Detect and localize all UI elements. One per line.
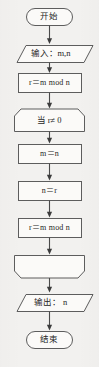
flowchart-canvas	[0, 0, 99, 367]
node-end-shape	[27, 332, 73, 349]
connector-updater-to-loopend	[47, 238, 52, 255]
flowchart-diagram: 开始 输入：m,n r＝m mod n 当 r≠ 0 m＝n n＝r r＝m m…	[0, 0, 99, 367]
connector-loopend-to-output	[47, 278, 52, 293]
node-assign-n-shape	[19, 182, 82, 201]
connector-input-to-initr	[47, 63, 52, 74]
node-init-r-shape	[19, 74, 82, 93]
node-loop-start-shape	[15, 109, 85, 132]
node-update-r-shape	[19, 219, 82, 238]
connector-start-to-input	[47, 26, 52, 45]
connector-loopstart-to-assignm	[47, 132, 52, 144]
node-loop-end-shape	[15, 256, 85, 279]
node-assign-m-shape	[19, 145, 82, 164]
node-output-shape	[17, 295, 93, 312]
connector-assignm-to-assignn	[47, 164, 52, 181]
connector-assignn-to-updater	[47, 201, 52, 218]
connector-initr-to-loopstart	[47, 93, 52, 109]
connector-output-to-end	[47, 312, 52, 331]
node-start-shape	[27, 9, 73, 26]
node-input-shape	[17, 46, 93, 63]
